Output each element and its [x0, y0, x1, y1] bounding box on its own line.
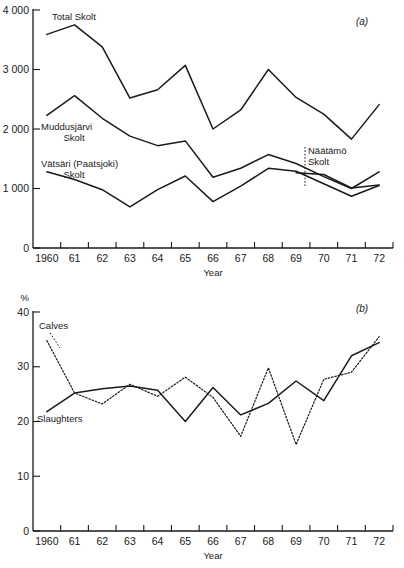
x-tick-label: 68: [263, 535, 275, 547]
x-tick-label: 69: [290, 535, 302, 547]
y-tick-label: 1 000: [3, 182, 29, 194]
x-tick-label: 61: [69, 535, 81, 547]
y-tick-label: 0: [23, 242, 29, 254]
x-tick-label: 67: [235, 252, 247, 264]
x-tick-label: 70: [318, 252, 330, 264]
x-tick-label: 70: [318, 535, 330, 547]
x-tick-label: 72: [373, 535, 385, 547]
slaughters-label: Slaughters: [37, 413, 83, 424]
panel-label: (a): [356, 16, 368, 27]
x-tick-label: 1960: [35, 252, 59, 264]
x-tick-label: 71: [346, 252, 358, 264]
x-tick-label: 65: [179, 535, 191, 547]
reindeer-statistics-figure: 01 0002 0003 0004 0001960616263646566676…: [0, 0, 404, 568]
y-tick-label: 2 000: [3, 123, 29, 135]
x-tick-label: 1960: [35, 535, 59, 547]
y-tick-label: 0: [23, 525, 29, 537]
panel-b: 010203040%1960616263646566676869707172Ye…: [17, 292, 393, 561]
y-tick-label: 40: [17, 306, 29, 318]
muddusjarvi-skolt-label: Muddusjärvi: [41, 121, 92, 132]
x-tick-label: 61: [69, 252, 81, 264]
panel-a: 01 0002 0003 0004 0001960616263646566676…: [3, 4, 393, 278]
x-tick-label: 67: [235, 535, 247, 547]
naatamo-skolt-label: Skolt: [308, 156, 329, 167]
vatsari-paatsjoki-skolt-label: Skolt: [63, 169, 84, 180]
series-line: [47, 168, 379, 207]
x-tick-label: 62: [96, 252, 108, 264]
total-skolt-label: Total Skolt: [52, 11, 96, 22]
y-tick-label: 20: [17, 415, 29, 427]
x-tick-label: 66: [207, 252, 219, 264]
calves-label: Calves: [39, 320, 68, 331]
x-tick-label: 71: [346, 535, 358, 547]
series-line: [47, 96, 379, 189]
y-tick-label: 4 000: [3, 4, 29, 16]
x-tick-label: 65: [179, 252, 191, 264]
x-tick-label: 68: [263, 252, 275, 264]
x-tick-label: 66: [207, 535, 219, 547]
vatsari-paatsjoki-skolt-label: Vätsäri (Paatsjoki): [41, 158, 118, 169]
x-tick-label: 62: [96, 535, 108, 547]
x-tick-label: 63: [124, 252, 136, 264]
y-tick-label: 30: [17, 360, 29, 372]
y-tick-label: 10: [17, 470, 29, 482]
series-line: [47, 25, 379, 139]
calves-label-leader: [50, 333, 60, 348]
x-tick-label: 69: [290, 252, 302, 264]
y-tick-label: 3 000: [3, 63, 29, 75]
muddusjarvi-skolt-label: Skolt: [63, 132, 84, 143]
x-tick-label: 72: [373, 252, 385, 264]
panel-label: (b): [356, 303, 368, 314]
naatamo-skolt-label: Näätämö: [308, 145, 347, 156]
y-axis-unit-label: %: [21, 292, 30, 303]
series-line: [47, 343, 379, 422]
series-line: [296, 173, 379, 188]
x-tick-label: 64: [152, 535, 164, 547]
x-axis-title: Year: [203, 267, 222, 278]
x-axis-title: Year: [203, 550, 222, 561]
x-tick-label: 63: [124, 535, 136, 547]
figure-root: 01 0002 0003 0004 0001960616263646566676…: [0, 0, 404, 568]
x-tick-label: 64: [152, 252, 164, 264]
